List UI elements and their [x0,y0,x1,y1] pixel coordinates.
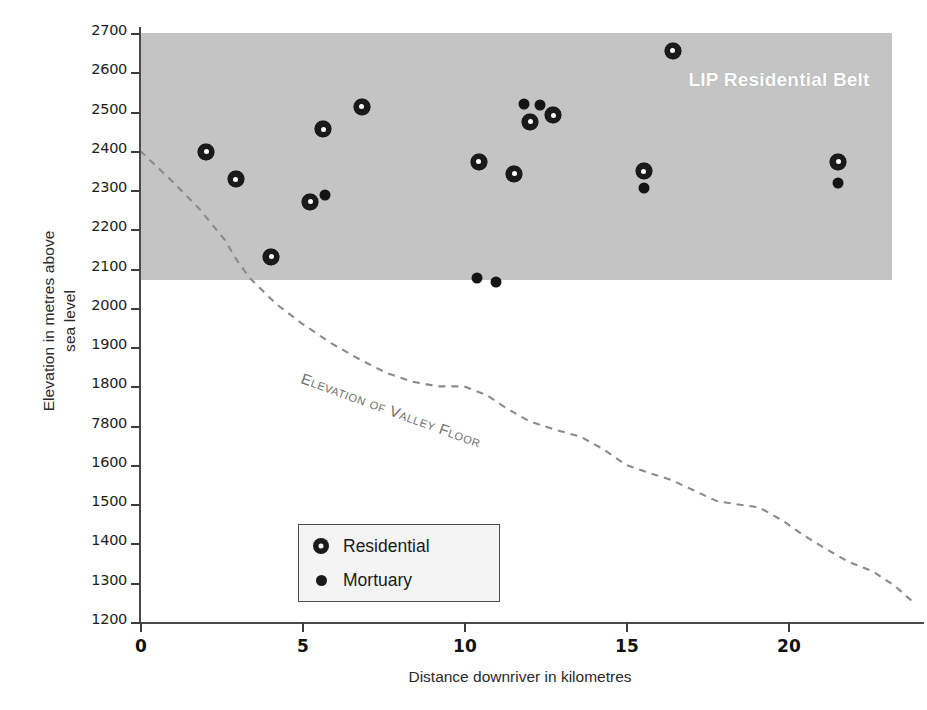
data-point-mortuary [471,273,482,284]
data-point-residential [227,171,244,188]
data-point-mortuary [833,177,844,188]
data-point-residential [830,153,847,170]
data-point-mortuary [518,98,529,109]
plot-area: LIP Residential Belt Elevation of Valley… [140,33,924,622]
y-tick: 1900 [131,347,140,349]
x-tick-label: 0 [135,636,147,656]
x-tick [464,622,466,632]
y-tick: 2100 [131,269,140,271]
y-tick-label: 1800 [91,375,127,391]
data-point-residential [522,113,539,130]
data-point-residential [263,248,280,265]
data-point-residential [506,165,523,182]
data-point-mortuary [638,183,649,194]
x-tick [140,622,142,632]
y-tick: 1500 [131,504,140,506]
y-tick-label: 1500 [91,493,127,509]
data-point-residential [664,42,681,59]
y-axis-title-line-2: sea level [60,161,81,481]
y-tick: 2000 [131,308,140,310]
y-tick: 1600 [131,465,140,467]
y-tick: 2700 [131,33,140,35]
data-point-residential [635,163,652,180]
legend-label-mortuary: Mortuary [343,570,412,591]
data-point-residential [353,98,370,115]
y-tick-label: 1300 [91,572,127,588]
data-point-residential [315,121,332,138]
y-axis-title-line-1: Elevation in metres above [39,161,60,481]
y-tick: 1200 [131,622,140,624]
residential-marker-icon [299,529,343,563]
y-tick-label: 2300 [91,179,127,195]
y-tick: 2200 [131,229,140,231]
x-tick [626,622,628,632]
y-tick: 7800 [131,426,140,428]
y-tick: 1400 [131,543,140,545]
data-point-mortuary [491,277,502,288]
x-tick [788,622,790,632]
y-tick-label: 1200 [91,611,127,627]
y-tick-label: 2400 [91,140,127,156]
chart-legend: Residential Mortuary [298,524,500,602]
legend-item-residential: Residential [299,529,499,563]
x-tick-label: 20 [777,636,801,656]
data-point-residential [470,153,487,170]
legend-item-mortuary: Mortuary [299,563,499,597]
y-tick: 1300 [131,583,140,585]
y-tick-label: 7800 [91,415,127,431]
data-point-residential [545,107,562,124]
x-tick-label: 5 [297,636,309,656]
legend-label-residential: Residential [343,536,430,557]
y-tick-label: 2100 [91,258,127,274]
x-tick-label: 10 [453,636,477,656]
x-axis-title: Distance downriver in kilometres [140,668,900,686]
y-tick-label: 2200 [91,218,127,234]
x-tick [302,622,304,632]
y-tick: 1800 [131,386,140,388]
mortuary-marker-icon [299,563,343,597]
y-tick: 2600 [131,72,140,74]
y-tick-label: 2700 [91,22,127,38]
y-tick: 2400 [131,151,140,153]
data-point-mortuary [535,100,546,111]
x-tick-label: 15 [615,636,639,656]
data-point-residential [302,193,319,210]
y-tick-label: 1400 [91,532,127,548]
data-point-mortuary [319,190,330,201]
y-tick: 2300 [131,190,140,192]
y-tick-label: 1900 [91,336,127,352]
y-tick-label: 2600 [91,61,127,77]
x-axis-line [139,622,924,624]
chart-figure: Elevation in metres above sea level Dist… [0,0,927,710]
y-tick-label: 2000 [91,297,127,313]
data-point-residential [198,143,215,160]
y-axis-title: Elevation in metres above sea level [39,161,81,481]
y-tick-label: 2500 [91,101,127,117]
y-axis-line [139,27,141,623]
y-tick: 2500 [131,112,140,114]
y-tick-label: 1600 [91,454,127,470]
